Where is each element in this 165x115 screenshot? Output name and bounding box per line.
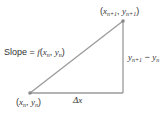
start-point — [28, 91, 32, 95]
end-point — [121, 19, 125, 23]
slope-line — [30, 21, 123, 93]
delta-x-label: Δx — [72, 95, 82, 105]
start-point-label: (xn, yn) — [16, 97, 41, 108]
euler-slope-diagram: (xn+1, yn+1) Slope = f(xn, yn) yn+1 − yn… — [0, 0, 165, 115]
slope-label: Slope = f(xn, yn) — [4, 47, 65, 58]
delta-y-label: yn+1 − yn — [127, 52, 159, 63]
end-point-label: (xn+1, yn+1) — [100, 6, 139, 17]
